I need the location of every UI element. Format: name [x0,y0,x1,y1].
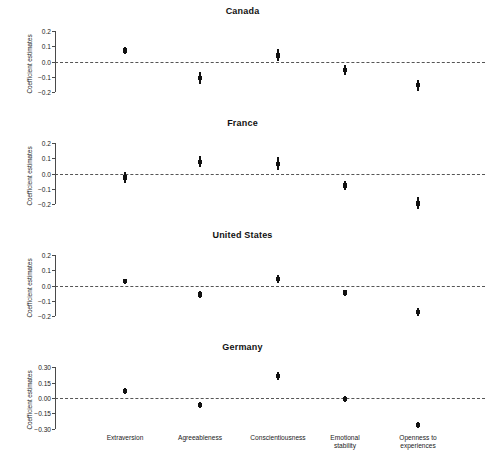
estimate-marker [416,83,420,87]
y-tick-label: −0.30 [34,425,51,432]
x-axis-label-extraversion: Extraversion [107,434,144,442]
y-tick-label: 0.0 [42,58,51,65]
y-axis-label: Coefficient estimates [26,364,33,436]
estimate-marker [123,279,127,283]
zero-reference-line [55,174,485,175]
estimate-marker [343,397,347,401]
estimate-marker [416,310,420,314]
y-tick-label: −0.2 [38,313,51,320]
plot-area-canada: 0.20.10.0−0.1−0.2 [55,6,485,106]
y-tick-label: 0.1 [42,155,51,162]
plot-area-france: 0.20.10.0−0.1−0.2 [55,118,485,218]
x-axis-label-agreeableness: Agreeableness [178,434,222,442]
y-tick [52,383,55,384]
estimate-marker [276,162,280,166]
y-axis-label: Coefficient estimates [26,252,33,324]
y-tick-label: 0.0 [42,170,51,177]
y-tick [52,143,55,144]
estimate-marker [276,53,280,57]
panel-france: FranceCoefficient estimates0.20.10.0−0.1… [0,118,485,226]
y-tick-label: 0.30 [38,364,51,371]
zero-reference-line [55,62,485,63]
x-axis-label-conscientiousness: Conscientiousness [250,434,305,442]
y-tick [52,367,55,368]
y-tick [52,204,55,205]
y-tick [52,77,55,78]
zero-reference-line [55,398,485,399]
plot-area-united-states: 0.20.10.0−0.1−0.2 [55,230,485,330]
y-tick [52,46,55,47]
estimate-marker [276,374,280,378]
y-tick-label: 0.1 [42,267,51,274]
y-tick-label: −0.1 [38,298,51,305]
multi-panel-coefficient-plot: CanadaCoefficient estimates0.20.10.0−0.1… [0,0,485,463]
y-tick [52,429,55,430]
y-tick [52,270,55,271]
estimate-marker [198,292,202,296]
y-tick-label: 0.00 [38,394,51,401]
estimate-marker [123,389,127,393]
zero-reference-line [55,286,485,287]
y-tick-label: −0.1 [38,186,51,193]
y-tick-label: −0.2 [38,201,51,208]
estimate-marker [343,183,347,187]
y-tick [52,158,55,159]
y-tick [52,92,55,93]
y-tick-label: −0.15 [34,410,51,417]
panel-united-states: United StatesCoefficient estimates0.20.1… [0,230,485,338]
y-tick [52,316,55,317]
y-tick-label: 0.1 [42,43,51,50]
y-tick [52,189,55,190]
y-axis-label: Coefficient estimates [26,140,33,212]
y-tick [52,301,55,302]
y-tick [52,255,55,256]
y-tick-label: 0.2 [42,28,51,35]
y-tick-label: 0.15 [38,379,51,386]
y-tick-label: 0.2 [42,140,51,147]
x-axis-label-openness-to-experiences: Openness to experiences [399,434,436,450]
estimate-marker [276,277,280,281]
estimate-marker [198,403,202,407]
y-axis-label: Coefficient estimates [26,28,33,100]
estimate-marker [198,160,202,164]
y-tick-label: 0.2 [42,252,51,259]
estimate-marker [198,76,202,80]
x-axis-label-emotional-stability: Emotional stability [330,434,359,450]
estimate-marker [123,48,127,52]
y-tick [52,413,55,414]
estimate-marker [416,423,420,427]
estimate-marker [343,290,347,294]
estimate-marker [123,175,127,179]
estimate-marker [416,201,420,205]
y-tick-label: 0.0 [42,282,51,289]
y-tick [52,31,55,32]
panel-canada: CanadaCoefficient estimates0.20.10.0−0.1… [0,6,485,114]
y-tick-label: −0.2 [38,89,51,96]
estimate-marker [343,68,347,72]
plot-area-germany: 0.300.150.00−0.15−0.30 [55,342,485,442]
y-tick-label: −0.1 [38,74,51,81]
